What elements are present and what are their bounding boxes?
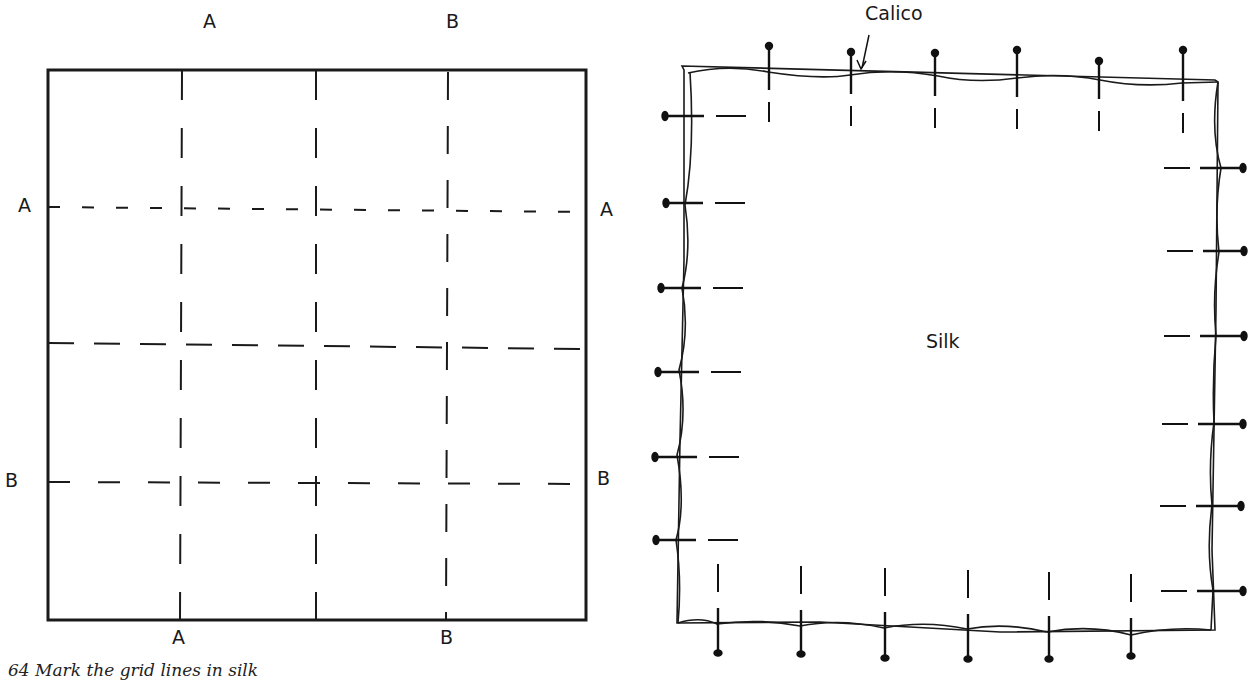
label-calico: Calico [865,4,923,23]
label-silk: Silk [926,330,960,352]
pin-head [715,651,722,656]
label-bottom-a: A [172,628,185,647]
pin-head [1241,420,1246,428]
pin-head [798,652,805,657]
grid-diagram [48,70,586,620]
label-left-a: A [18,196,31,215]
pin-head [659,284,664,292]
calico-arrow [857,35,869,69]
label-right-a: A [600,200,613,219]
label-top-a: A [203,12,216,31]
pin-head [1241,587,1246,595]
pin-head [882,656,889,661]
grid-line-horizontal-center [48,343,586,349]
figure-caption: 64 Mark the grid lines in silk [8,660,258,680]
pin-head [848,49,854,55]
label-top-b: B [446,12,459,31]
pin-head [1128,654,1135,659]
pin-head [654,536,659,544]
pin-head [965,657,972,662]
pin-head [653,453,658,461]
grid-marks [708,102,1193,602]
pin-head [656,368,661,376]
grid-line-vertical-b [446,72,448,620]
pin-head [664,199,669,207]
pin-head [1014,47,1020,53]
pin-head [663,112,668,120]
grid-line-vertical-a [180,70,182,620]
pin-head [1180,47,1186,53]
pin-head [1096,58,1102,64]
pin-head [1242,247,1247,255]
pin-head [1239,502,1244,510]
pin-head [1046,657,1053,662]
pin-head [766,43,772,49]
label-bottom-b: B [440,628,453,647]
label-left-b: B [5,471,18,490]
silk-edge-right [1209,82,1221,630]
pin-head [932,50,938,56]
pin-head [1241,164,1246,172]
label-right-b: B [597,469,610,488]
pins [653,43,1247,662]
silk-edge-top [688,68,1218,85]
pin-head [1242,332,1247,340]
grid-line-horizontal-b [48,482,586,484]
